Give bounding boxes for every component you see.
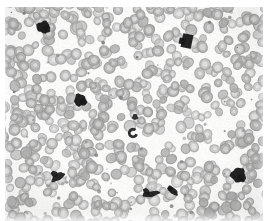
blood-smear-field: [5, 7, 263, 221]
blood-smear-image: [5, 7, 263, 221]
micrograph-viewport: Grayscale light micrograph of a peripher…: [0, 0, 267, 221]
